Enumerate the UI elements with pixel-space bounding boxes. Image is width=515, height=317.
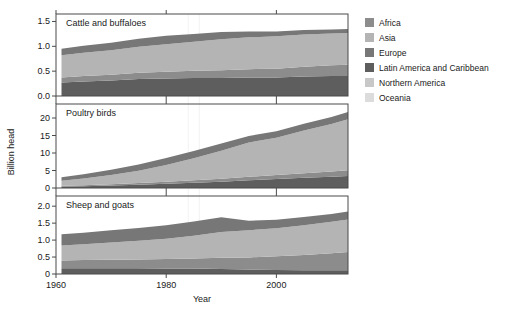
legend-swatch-europe	[365, 48, 374, 57]
y-tick-label: 1.0	[37, 235, 50, 245]
y-tick-label: 1.5	[37, 218, 50, 228]
x-tick-label: 1960	[46, 280, 66, 290]
y-tick-label: 0.0	[37, 91, 50, 101]
y-tick-label: 15	[40, 131, 50, 141]
x-tick-label: 1980	[156, 280, 176, 290]
figure-container: 0.00.51.01.5Cattle and buffaloes05101520…	[0, 0, 515, 317]
panel-1: 0.00.51.01.5Cattle and buffaloes	[37, 10, 348, 101]
y-tick-label: 0	[45, 183, 50, 193]
legend: AfricaAsiaEuropeLatin America and Caribb…	[365, 18, 489, 103]
legend-label-africa: Africa	[379, 18, 401, 28]
panel-areas	[62, 212, 348, 274]
panel-title: Poultry birds	[66, 108, 117, 118]
x-axis-label: Year	[193, 294, 211, 304]
legend-swatch-northern-america	[365, 78, 374, 87]
panel-title: Cattle and buffaloes	[66, 18, 146, 28]
legend-swatch-africa	[365, 18, 374, 27]
legend-label-latin-america-and-caribbean: Latin America and Caribbean	[379, 63, 489, 73]
legend-label-northern-america: Northern America	[379, 78, 445, 88]
y-tick-label: 0.5	[37, 66, 50, 76]
y-tick-label: 10	[40, 148, 50, 158]
y-tick-label: 2.0	[37, 201, 50, 211]
legend-label-europe: Europe	[379, 48, 407, 58]
y-tick-label: 20	[40, 113, 50, 123]
panel-2: 05101520Poultry birds	[40, 100, 348, 193]
y-axis-label: Billion head	[6, 129, 16, 176]
legend-swatch-asia	[365, 33, 374, 42]
panel-areas	[62, 29, 348, 96]
panel-title: Sheep and goats	[66, 200, 135, 210]
panel-3: 00.51.01.52.0196019802000Sheep and goats	[37, 192, 348, 290]
legend-swatch-latin-america-and-caribbean	[365, 63, 374, 72]
x-tick-label: 2000	[266, 280, 286, 290]
y-tick-label: 5	[45, 166, 50, 176]
stacked-area-figure: 0.00.51.01.5Cattle and buffaloes05101520…	[0, 0, 515, 317]
y-tick-label: 0.5	[37, 252, 50, 262]
legend-label-oceania: Oceania	[379, 93, 411, 103]
y-tick-label: 1.5	[37, 16, 50, 26]
y-tick-label: 0	[45, 269, 50, 279]
legend-swatch-oceania	[365, 93, 374, 102]
legend-label-asia: Asia	[379, 33, 396, 43]
panel-areas	[62, 112, 348, 188]
y-tick-label: 1.0	[37, 41, 50, 51]
